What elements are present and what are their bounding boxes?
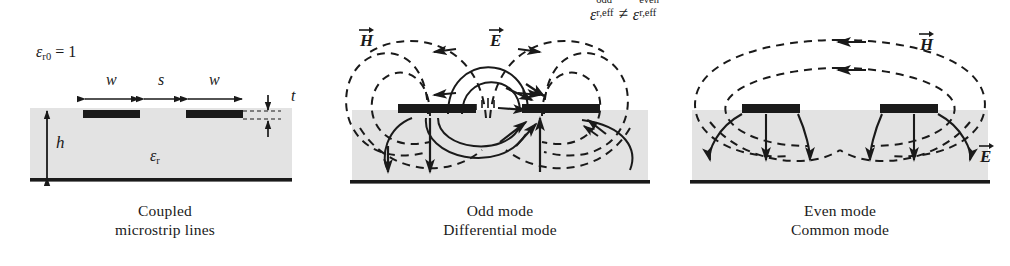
caption-line-1: Even mode (670, 201, 1010, 220)
width-left-label: w (106, 72, 117, 88)
vector-arrow-icon (489, 25, 504, 33)
vector-arrow-icon (919, 29, 934, 37)
e-field-vector-label: E (490, 32, 501, 49)
substrate-region (692, 110, 988, 182)
coupled-microstrip-figure: εoddr,eff≠εevenr,eff εr0 = 1 (0, 0, 1010, 266)
panel-coupled-microstrip-lines: εr0 = 1 (0, 0, 330, 266)
substrate-region (352, 110, 648, 182)
conductor-strip-right (186, 110, 243, 118)
eps-r-subscript: r (156, 155, 160, 166)
h-field-arrowheads (838, 42, 866, 70)
conductor-strip-right (522, 104, 600, 113)
e-field-vector-label: E (980, 148, 991, 165)
width-right-label: w (209, 72, 220, 88)
panel-even-mode: H E Even mode Common mode (670, 0, 1010, 266)
conductor-strip-left (83, 110, 140, 118)
ground-plane (30, 178, 292, 182)
caption-line-1: Odd mode (330, 201, 670, 220)
caption-line-2: microstrip lines (0, 220, 330, 239)
height-label: h (56, 134, 65, 151)
caption-coupled-microstrip: Coupled microstrip lines (0, 201, 330, 239)
ground-plane (690, 180, 990, 184)
h-field-vector-label: H (920, 36, 933, 53)
caption-line-1: Coupled (0, 201, 330, 220)
ground-plane (350, 180, 650, 184)
conductor-strip-right (880, 104, 938, 113)
e-field-letter: E (490, 32, 501, 49)
caption-even-mode: Even mode Common mode (670, 201, 1010, 239)
vector-arrow-icon (979, 141, 994, 149)
e-field-letter: E (980, 148, 991, 165)
caption-line-2: Common mode (670, 220, 1010, 239)
vector-arrow-icon (359, 25, 374, 33)
caption-line-2: Differential mode (330, 220, 670, 239)
caption-odd-mode: Odd mode Differential mode (330, 201, 670, 239)
h-field-letter: H (360, 32, 373, 49)
spacing-label: s (158, 72, 164, 88)
conductor-strip-left (398, 104, 476, 113)
h-field-vector-label: H (360, 32, 373, 49)
conductor-strip-left (742, 104, 800, 113)
thickness-label: t (291, 88, 295, 104)
panel-odd-mode: H E Odd mode Differential mode (330, 0, 670, 266)
eps-r-label: εr (150, 148, 160, 167)
h-field-letter: H (920, 36, 933, 53)
